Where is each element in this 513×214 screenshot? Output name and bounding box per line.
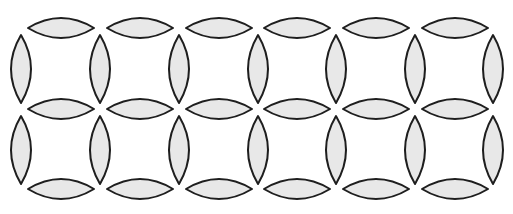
leaf-lattice-diagram bbox=[0, 0, 513, 214]
